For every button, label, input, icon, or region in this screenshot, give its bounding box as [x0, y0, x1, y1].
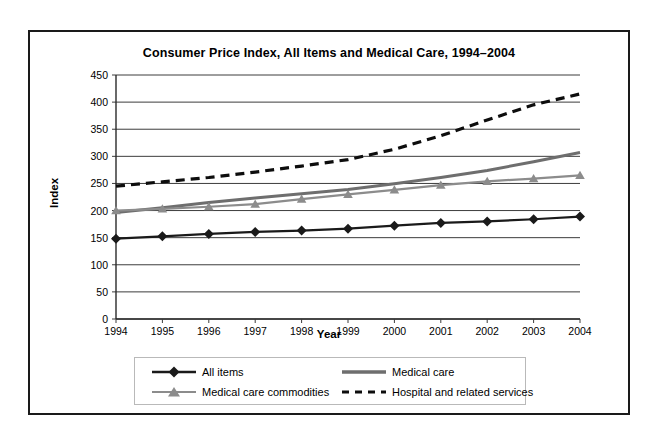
y-tick-label: 400: [90, 96, 108, 108]
x-axis-label: Year: [30, 328, 628, 340]
legend-swatch-medical-care-commodities: [151, 384, 197, 400]
y-tick-label: 350: [90, 123, 108, 135]
y-tick-label: 250: [90, 177, 108, 189]
legend-label-medical-care-commodities: Medical care commodities: [202, 386, 329, 398]
series-line: [116, 153, 580, 213]
y-tick-label: 100: [90, 259, 108, 271]
series-marker: [157, 231, 167, 241]
y-tick-label: 200: [90, 205, 108, 217]
y-tick-label: 450: [90, 69, 108, 81]
legend-label-hospital-and-related-services: Hospital and related services: [392, 386, 533, 398]
legend-swatch-medical-care: [341, 364, 387, 380]
y-tick-label: 50: [96, 286, 108, 298]
y-tick-label: 0: [102, 313, 108, 325]
y-axis-label: Index: [48, 178, 60, 208]
legend-item-hospital-and-related-services: Hospital and related services: [341, 382, 533, 402]
series-marker: [111, 234, 121, 244]
plot-area: 0501001502002503003504004501994199519961…: [30, 32, 628, 413]
series-line: [116, 94, 580, 186]
legend-item-all-items: All items: [151, 362, 244, 382]
series-marker: [529, 214, 539, 224]
chart-legend: All items Medical care Medical care comm…: [134, 357, 526, 405]
series-marker: [297, 226, 307, 236]
legend-label-all-items: All items: [202, 366, 244, 378]
series-marker: [389, 221, 399, 231]
legend-item-medical-care-commodities: Medical care commodities: [151, 382, 329, 402]
series-marker: [482, 216, 492, 226]
y-tick-label: 150: [90, 232, 108, 244]
legend-item-medical-care: Medical care: [341, 362, 454, 382]
series-marker: [436, 218, 446, 228]
legend-swatch-all-items: [151, 364, 197, 380]
series-marker: [343, 224, 353, 234]
legend-swatch-hospital-and-related-services: [341, 384, 387, 400]
chart-figure-frame: Consumer Price Index, All Items and Medi…: [28, 30, 630, 415]
series-marker: [250, 227, 260, 237]
legend-label-medical-care: Medical care: [392, 366, 454, 378]
series-marker: [575, 212, 585, 222]
y-tick-label: 300: [90, 150, 108, 162]
